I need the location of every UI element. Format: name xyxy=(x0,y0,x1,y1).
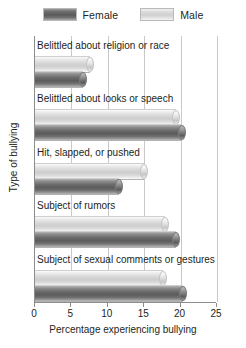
x-axis-title: Percentage experiencing bullying xyxy=(0,324,246,335)
bar-female xyxy=(35,71,83,88)
gridline xyxy=(217,36,218,302)
x-tick-mark xyxy=(143,303,144,307)
legend-label-male: Male xyxy=(180,9,203,21)
x-tick-mark xyxy=(180,303,181,307)
legend-swatch-female-icon xyxy=(43,8,77,21)
legend-entry-female: Female xyxy=(43,8,119,21)
bar-female xyxy=(35,285,183,302)
bar-group: Subject of rumors xyxy=(35,196,216,249)
x-tick-mark xyxy=(34,303,35,307)
x-tick-label: 15 xyxy=(131,308,155,319)
bar-cap xyxy=(115,179,123,194)
x-tick-label: 5 xyxy=(58,308,82,319)
x-tick-mark xyxy=(216,303,217,307)
category-label: Belittled about religion or race xyxy=(37,40,169,52)
bar-group: Subject of sexual comments or gestures xyxy=(35,250,216,303)
bar-female xyxy=(35,231,176,248)
y-axis-title: Type of bullying xyxy=(8,93,19,223)
chart-legend: Female Male xyxy=(0,8,246,21)
bar-group: Belittled about religion or race xyxy=(35,36,216,89)
bar-cap xyxy=(178,125,186,140)
x-tick-label: 0 xyxy=(22,308,46,319)
category-label: Subject of sexual comments or gestures xyxy=(37,254,215,266)
bar-cap xyxy=(161,217,169,232)
bar-cap xyxy=(159,271,167,286)
category-label: Subject of rumors xyxy=(37,200,115,212)
bar-cap xyxy=(140,164,148,179)
bar-cap xyxy=(86,57,94,72)
legend-entry-male: Male xyxy=(140,8,203,21)
legend-label-female: Female xyxy=(83,9,119,21)
bar-cap xyxy=(172,110,180,125)
x-tick-label: 25 xyxy=(204,308,228,319)
bar-cap xyxy=(172,232,180,247)
x-tick-label: 10 xyxy=(95,308,119,319)
legend-swatch-male-icon xyxy=(140,8,174,21)
x-tick-mark xyxy=(70,303,71,307)
bar-cap xyxy=(79,72,87,87)
bar-cap xyxy=(179,286,187,301)
x-tick-mark xyxy=(107,303,108,307)
x-tick-label: 20 xyxy=(168,308,192,319)
bar-group: Belittled about looks or speech xyxy=(35,89,216,142)
bar-female xyxy=(35,124,182,141)
bar-female xyxy=(35,178,119,195)
category-label: Belittled about looks or speech xyxy=(37,93,173,105)
category-label: Hit, slapped, or pushed xyxy=(37,147,140,159)
plot-area: Belittled about religion or raceBelittle… xyxy=(34,36,216,303)
bar-group: Hit, slapped, or pushed xyxy=(35,143,216,196)
bar-chart: Female Male Belittled about religion or … xyxy=(0,0,246,348)
